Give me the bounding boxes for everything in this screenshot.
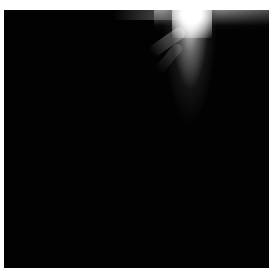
light-source bbox=[172, 10, 212, 38]
dark-photo-frame bbox=[4, 10, 269, 268]
